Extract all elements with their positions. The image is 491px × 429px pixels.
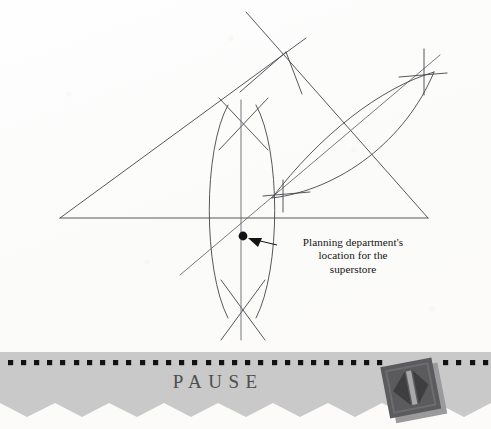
arc-left-lens-right xyxy=(256,105,275,318)
arc-right-lens-upper xyxy=(272,72,434,198)
triangle-left-side xyxy=(60,38,306,218)
callout-line-2: location for the xyxy=(278,249,428,262)
pause-label: PAUSE xyxy=(0,371,430,393)
callout-text: Planning department's location for the s… xyxy=(278,236,428,276)
triangle-right-side xyxy=(246,12,428,218)
construction-ray-apex-left xyxy=(240,52,286,92)
arc-right-lens-lower xyxy=(272,72,434,198)
callout-line-1: Planning department's xyxy=(278,236,428,249)
page-root: .ink { stroke:#45454a; stroke-width:0.9;… xyxy=(0,0,491,429)
arc-cross-tick-upper-h xyxy=(399,73,447,77)
callout-arrowhead xyxy=(248,238,262,247)
callout-line-3: superstore xyxy=(278,263,428,276)
construction-point-dot xyxy=(239,232,248,241)
